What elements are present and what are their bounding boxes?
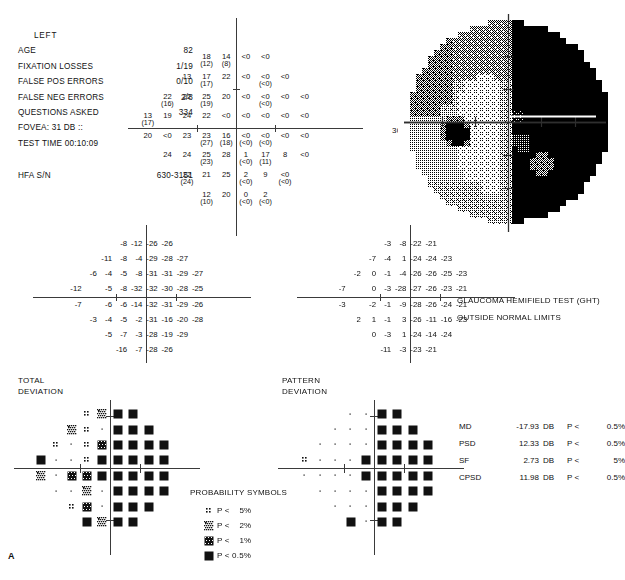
threshold-value: <0 xyxy=(293,151,317,159)
legend-text: P < 0.5% xyxy=(217,548,251,563)
legend-title: PROBABILITY SYMBOLS xyxy=(190,485,287,500)
pattern-deviation-probability-symbol xyxy=(316,471,325,480)
pattern-deviation-probability-symbol xyxy=(377,440,387,450)
threshold-point: <0 xyxy=(293,93,317,101)
pattern-deviation-probability-symbol xyxy=(392,440,402,450)
total-deviation-value: -7 xyxy=(62,301,82,309)
total-deviation-probability-symbol xyxy=(52,487,61,496)
global-indices-block: MD-17.93DBP <0.5%PSD12.33DBP <0.5%SF2.73… xyxy=(459,418,625,486)
pattern-deviation-probability-symbol xyxy=(377,517,387,527)
threshold-retest-value: (16) xyxy=(155,100,179,107)
parameter-label: FIXATION LOSSES xyxy=(18,59,93,74)
total-deviation-probability-symbol xyxy=(82,455,92,465)
index-p-level: 5% xyxy=(595,452,625,469)
pattern-deviation-probability-symbol xyxy=(346,517,356,527)
threshold-point: 2(<0) xyxy=(253,191,277,205)
pattern-deviation-probability-plot xyxy=(278,400,468,560)
total-deviation-probability-symbol xyxy=(144,502,154,512)
pattern-deviation-probability-symbol xyxy=(346,440,355,449)
total-deviation-probability-symbol xyxy=(128,455,138,465)
pattern-deviation-probability-symbol xyxy=(346,456,355,465)
threshold-value: <0 xyxy=(253,53,277,61)
pattern-deviation-probability-symbol xyxy=(316,440,325,449)
legend-row: P < 0.5% xyxy=(204,548,287,563)
threshold-retest-value: (8) xyxy=(214,60,238,67)
pattern-deviation-probability-symbol xyxy=(392,517,402,527)
parameter-label: TEST TIME 00:10:09 xyxy=(18,136,98,151)
threshold-point: <0(<0) xyxy=(273,171,297,185)
index-unit: DB xyxy=(539,469,565,486)
figure-letter: A xyxy=(8,551,15,561)
index-unit: DB xyxy=(539,418,565,435)
index-p-label: P < xyxy=(565,469,595,486)
index-p-label: P < xyxy=(565,418,595,435)
legend-text: P < 1% xyxy=(217,533,251,548)
pattern-deviation-probability-symbol xyxy=(331,440,340,449)
threshold-retest-value: (19) xyxy=(195,100,219,107)
total-deviation-value: -12 xyxy=(62,285,82,293)
legend-row-list: P < 5%P < 2%P < 1%P < 0.5% xyxy=(190,503,287,563)
threshold-retest-value: (<0) xyxy=(253,139,277,146)
index-unit: DB xyxy=(539,435,565,452)
pattern-deviation-probability-symbol xyxy=(377,486,387,496)
pattern-deviation-probability-symbol xyxy=(346,425,355,434)
total-deviation-probability-symbol xyxy=(82,440,92,450)
pattern-deviation-probability-symbol xyxy=(362,425,371,434)
total-deviation-probability-symbol xyxy=(97,471,107,481)
total-deviation-probability-symbol xyxy=(159,486,169,496)
total-deviation-probability-axis-tick xyxy=(80,464,81,473)
total-deviation-probability-symbol xyxy=(98,425,107,434)
total-deviation-probability-symbol xyxy=(113,409,123,419)
index-value: 11.98 xyxy=(489,469,539,486)
index-row: SF2.73DBP <5% xyxy=(459,452,625,469)
legend-row: P < 2% xyxy=(204,518,287,533)
pattern-deviation-probability-symbol xyxy=(362,502,371,511)
legend-row: P < 5% xyxy=(204,503,287,518)
total-deviation-probability-symbol xyxy=(97,409,107,419)
threshold-retest-value: (11) xyxy=(253,158,277,165)
total-deviation-probability-symbol xyxy=(144,471,154,481)
total-deviation-probability-axis-tick xyxy=(140,464,141,473)
total-deviation-probability-symbol xyxy=(67,471,77,481)
pattern-deviation-probability-symbol xyxy=(408,425,418,435)
total-deviation-value: -25 xyxy=(183,285,203,293)
pattern-deviation-value: -21 xyxy=(417,240,437,248)
total-deviation-probability-symbol xyxy=(82,409,92,419)
threshold-retest-value: (23) xyxy=(195,158,219,165)
threshold-value: <0 xyxy=(273,73,297,81)
pattern-deviation-probability-symbol xyxy=(331,487,340,496)
pattern-deviation-probability-symbol xyxy=(392,455,402,465)
pattern-deviation-probability-symbol xyxy=(362,517,371,526)
total-deviation-probability-symbol xyxy=(97,517,107,527)
threshold-retest-value: (<0) xyxy=(253,100,277,107)
total-deviation-probability-symbol xyxy=(113,471,123,481)
threshold-point: <0 xyxy=(293,112,317,120)
pattern-deviation-probability-vertical-axis xyxy=(374,400,375,555)
pattern-deviation-probability-symbol xyxy=(392,425,402,435)
total-deviation-probability-symbol xyxy=(67,456,76,465)
total-deviation-numeric-grid: -8-12-26-26-11-8-4-29-28-27-6-4-5-8-31-3… xyxy=(18,233,268,361)
threshold-value: <0 xyxy=(293,132,317,140)
parameter-label: AGE xyxy=(18,43,36,58)
threshold-horizontal-axis xyxy=(128,128,363,129)
total-deviation-horizontal-axis xyxy=(33,297,251,298)
index-value: -17.93 xyxy=(489,418,539,435)
pattern-deviation-value: -3 xyxy=(326,301,346,309)
serial-number-label: HFA S/N xyxy=(18,168,51,183)
index-row: CPSD11.98DBP <0.5% xyxy=(459,469,625,486)
pattern-deviation-probability-symbol xyxy=(361,455,371,465)
total-deviation-probability-plot xyxy=(14,400,204,560)
index-p-level: 0.5% xyxy=(595,435,625,452)
total-deviation-value: -26 xyxy=(153,346,173,354)
parameter-label: QUESTIONS ASKED xyxy=(18,105,99,120)
total-deviation-probability-symbol xyxy=(144,440,154,450)
pattern-deviation-probability-symbol xyxy=(362,410,371,419)
index-unit: DB xyxy=(539,452,565,469)
total-deviation-probability-symbol xyxy=(128,471,138,481)
pattern-deviation-probability-symbol xyxy=(346,502,355,511)
pattern-deviation-probability-symbol xyxy=(392,471,402,481)
pattern-deviation-probability-axis-tick xyxy=(344,464,345,473)
threshold-retest-value: (24) xyxy=(175,178,199,185)
total-deviation-probability-symbol xyxy=(51,440,61,450)
threshold-sensitivity-grid: 18(12)14(8)<0<01317(17)22<0<0(<0)<022(16… xyxy=(150,18,390,236)
